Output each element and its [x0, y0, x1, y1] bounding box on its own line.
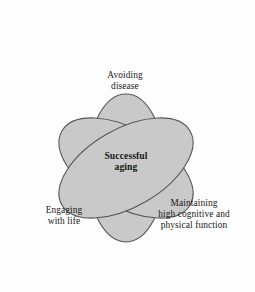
venn-diagram-shapes — [0, 0, 255, 292]
venn-diagram: Avoiding disease Engaging with life Main… — [0, 0, 255, 292]
venn-lobe-group — [42, 94, 209, 242]
